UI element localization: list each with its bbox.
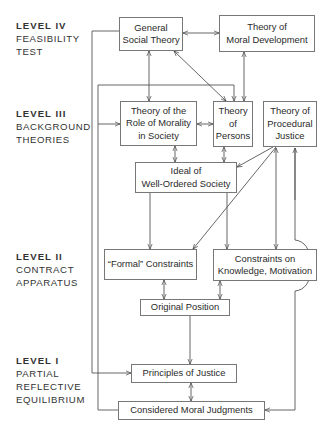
node-role-of-morality: Theory of the Role of Morality in Societ… — [120, 101, 197, 146]
node-text: in Society — [138, 130, 179, 143]
level-ii-line-1: CONTRACT — [16, 263, 78, 276]
node-text: Constraints on — [235, 253, 295, 266]
level-ii-title: LEVEL II — [16, 250, 78, 263]
level-iv-label: LEVEL IV FEASIBILITY TEST — [16, 19, 80, 58]
node-knowledge-motivation: Constraints on Knowledge, Motivation — [213, 249, 317, 281]
level-iv-line-2: TEST — [16, 45, 80, 58]
level-iii-line-2: THEORIES — [16, 133, 91, 146]
node-well-ordered-society: Ideal of Well-Ordered Society — [135, 162, 237, 193]
node-text: Role of Morality — [126, 117, 191, 130]
level-i-title: LEVEL I — [16, 354, 85, 367]
node-text: Ideal of — [171, 165, 202, 178]
node-text: Moral Development — [226, 34, 307, 47]
node-persons: Theory of Persons — [213, 101, 253, 147]
node-text: Knowledge, Motivation — [218, 265, 312, 278]
node-principles-of-justice: Principles of Justice — [131, 364, 237, 383]
node-text: “Formal” Constraints — [108, 258, 193, 271]
node-text: Theory of — [247, 21, 287, 34]
node-original-position: Original Position — [140, 299, 230, 316]
level-iv-title: LEVEL IV — [16, 19, 80, 32]
node-text: Social Theory — [122, 34, 179, 47]
node-formal-constraints: “Formal” Constraints — [104, 249, 197, 280]
level-i-line-2: REFLECTIVE — [16, 380, 85, 393]
node-text: of — [229, 118, 237, 131]
node-text: Theory — [218, 105, 247, 118]
level-i-label: LEVEL I PARTIAL REFLECTIVE EQUILIBRIUM — [16, 354, 85, 406]
level-ii-line-2: APPARATUS — [16, 276, 78, 289]
level-iii-line-1: BACKGROUND — [16, 120, 91, 133]
node-text: Original Position — [151, 301, 219, 314]
node-text: Theory of — [270, 105, 310, 118]
node-text: Procedural — [267, 118, 312, 131]
node-text: General — [134, 22, 167, 35]
node-text: Principles of Justice — [143, 367, 226, 380]
level-iii-title: LEVEL III — [16, 107, 91, 120]
node-text: Justice — [275, 130, 304, 143]
level-i-line-3: EQUILIBRIUM — [16, 393, 85, 406]
node-text: Well-Ordered Society — [142, 178, 231, 191]
node-text: Persons — [216, 130, 250, 143]
level-iii-label: LEVEL III BACKGROUND THEORIES — [16, 107, 91, 146]
level-iv-line-1: FEASIBILITY — [16, 32, 80, 45]
node-general-social-theory: General Social Theory — [119, 17, 183, 51]
level-i-line-1: PARTIAL — [16, 367, 85, 380]
node-text: Theory of the — [131, 105, 186, 118]
node-moral-development: Theory of Moral Development — [219, 15, 315, 52]
node-considered-judgments: Considered Moral Judgments — [118, 401, 265, 420]
node-text: Considered Moral Judgments — [130, 404, 252, 417]
level-ii-label: LEVEL II CONTRACT APPARATUS — [16, 250, 78, 289]
node-procedural-justice: Theory of Procedural Justice — [263, 101, 317, 147]
